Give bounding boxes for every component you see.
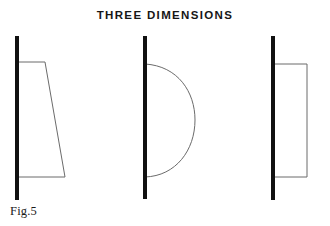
trapezoid-diagram xyxy=(17,36,65,200)
figure-canvas xyxy=(0,0,330,226)
semicircle-diagram xyxy=(145,36,195,199)
figure-caption: Fig.5 xyxy=(10,204,37,219)
trapezoid-outline xyxy=(17,62,65,177)
rectangle-outline xyxy=(273,64,307,177)
figure-page: THREE DIMENSIONS Fig.5 xyxy=(0,0,330,226)
rectangle-diagram xyxy=(273,36,307,200)
semicircle-outline xyxy=(145,64,195,177)
